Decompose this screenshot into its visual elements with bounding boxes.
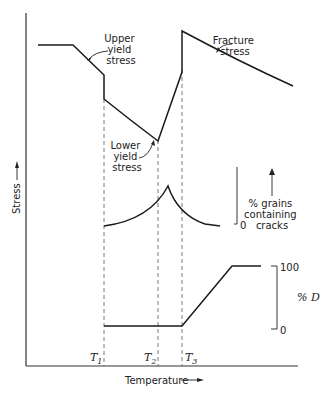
diagram-canvas: Upper yield stress Fracture stress Lower… bbox=[0, 0, 335, 398]
upper-yield-label: Upper yield stress bbox=[104, 33, 137, 66]
stress-curve bbox=[38, 31, 293, 141]
arrowhead-icon bbox=[151, 140, 155, 146]
upper-yield-pointer bbox=[89, 51, 108, 59]
percent-d-100-label: 100 bbox=[280, 262, 299, 273]
x-axis-label: Temperature bbox=[124, 375, 188, 386]
t1-label: T1 bbox=[90, 351, 102, 366]
grains-crack-curve bbox=[104, 186, 220, 226]
y-axis-label: Stress bbox=[11, 183, 22, 214]
percent-d-curve bbox=[104, 266, 261, 326]
percent-d-bracket bbox=[271, 266, 277, 329]
arrow-right-icon bbox=[197, 378, 204, 382]
t3-label: T3 bbox=[185, 351, 197, 366]
percent-d-label: % D bbox=[297, 291, 320, 304]
grains-zero-label: 0 bbox=[240, 220, 246, 231]
arrow-up-icon bbox=[15, 161, 19, 168]
t2-label: T2 bbox=[144, 351, 156, 366]
fracture-label: Fracture stress bbox=[213, 35, 257, 57]
percent-d-zero-label: 0 bbox=[280, 325, 286, 336]
grains-label: % grains containing cracks bbox=[244, 198, 300, 231]
lower-yield-label: Lower yield stress bbox=[110, 140, 143, 173]
grains-scale-bracket bbox=[234, 167, 237, 224]
arrow-up-icon bbox=[269, 168, 275, 175]
